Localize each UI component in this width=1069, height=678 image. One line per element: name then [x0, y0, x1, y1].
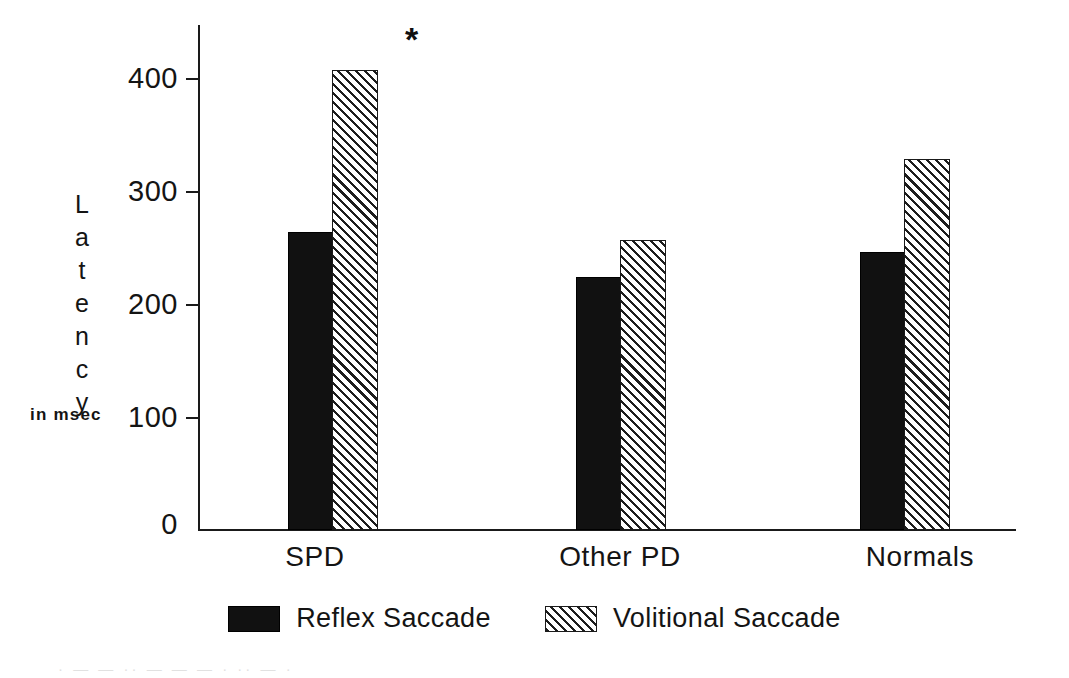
y-axis-tick-label-400: 400	[68, 62, 178, 95]
significance-asterisk-annotation: *	[405, 22, 418, 56]
y-axis-label-letter: n	[62, 320, 102, 353]
y-axis-tick-label-200: 200	[68, 288, 178, 321]
bar-spd-volitional-saccade	[332, 70, 378, 530]
y-axis-label-letter: t	[62, 254, 102, 287]
chart-legend: Reflex Saccade Volitional Saccade	[0, 603, 1069, 634]
legend-item-reflex-saccade: Reflex Saccade	[228, 603, 491, 634]
bar-normals-volitional-saccade	[904, 159, 950, 530]
bar-spd-reflex-saccade	[288, 232, 333, 530]
bar-other-pd-volitional-saccade	[620, 240, 666, 530]
legend-swatch-solid-icon	[228, 606, 280, 632]
scan-artifact-text: · — — ·· — — — · ·· — ·	[58, 660, 488, 674]
x-axis-category-label-normals: Normals	[830, 541, 1010, 573]
bar-other-pd-reflex-saccade	[576, 277, 621, 530]
y-axis-tick-label-300: 300	[68, 175, 178, 208]
legend-swatch-hatched-icon	[545, 606, 597, 632]
y-axis-tick-label-0: 0	[68, 508, 178, 541]
x-axis-category-label-spd: SPD	[255, 541, 375, 573]
x-axis-category-label-other-pd: Other PD	[530, 541, 710, 573]
legend-label-reflex-saccade: Reflex Saccade	[296, 603, 491, 634]
legend-item-volitional-saccade: Volitional Saccade	[545, 603, 841, 634]
y-axis-label-letter: a	[62, 221, 102, 254]
grouped-bar-chart-figure: L a t e n c y in msec 400 300 200 100 0 …	[0, 0, 1069, 678]
bar-normals-reflex-saccade	[860, 252, 905, 530]
y-axis-tick-label-100: 100	[68, 401, 178, 434]
y-axis-label-letter: c	[62, 353, 102, 386]
legend-label-volitional-saccade: Volitional Saccade	[613, 603, 841, 634]
plot-area	[198, 25, 1016, 530]
